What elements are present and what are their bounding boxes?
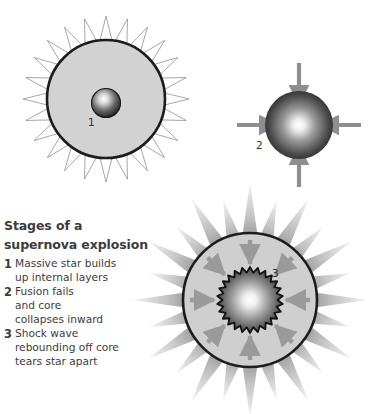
stage-1-figure: 1 xyxy=(23,16,189,182)
list-item-line: tears star apart xyxy=(15,355,156,369)
caption-block: Stages of a supernova explosion 1Massive… xyxy=(4,216,156,369)
list-item-line: Fusion fails xyxy=(15,285,156,299)
list-item-line: up internal layers xyxy=(15,271,156,285)
page-title: Stages of a supernova explosion xyxy=(4,216,156,254)
list-item-number: 2 xyxy=(4,285,15,300)
stage-2-label: 2 xyxy=(256,139,263,151)
list-item-text: Shock waverebounding off coretears star … xyxy=(15,327,156,369)
stage-3-label: 3 xyxy=(272,267,279,279)
stage-2-figure: 2 xyxy=(237,63,361,187)
stage-1-label: 1 xyxy=(88,116,95,128)
list-item-text: Massive star buildsup internal layers xyxy=(15,257,156,285)
list-item-line: rebounding off core xyxy=(15,341,156,355)
list-item: 2Fusion failsand corecollapses inward xyxy=(4,285,156,327)
stage-legend-list: 1Massive star buildsup internal layers2F… xyxy=(4,257,156,369)
list-item-number: 1 xyxy=(4,257,15,272)
stage-1-core xyxy=(92,89,121,118)
stage-2-collapsing-sphere xyxy=(265,91,333,159)
diagram-canvas: 1 2 3 Stages of a supernova explosion 1M… xyxy=(0,0,375,414)
list-item: 1Massive star buildsup internal layers xyxy=(4,257,156,285)
list-item-text: Fusion failsand corecollapses inward xyxy=(15,285,156,327)
list-item-line: Shock wave xyxy=(15,327,156,341)
title-line-1: Stages of a xyxy=(4,218,82,233)
title-line-2: supernova explosion xyxy=(4,237,148,252)
list-item-number: 3 xyxy=(4,327,15,342)
list-item-line: collapses inward xyxy=(15,313,156,327)
list-item: 3Shock waverebounding off coretears star… xyxy=(4,327,156,369)
list-item-line: Massive star builds xyxy=(15,257,156,271)
stage-3-figure: 3 xyxy=(132,182,368,414)
list-item-line: and core xyxy=(15,299,156,313)
